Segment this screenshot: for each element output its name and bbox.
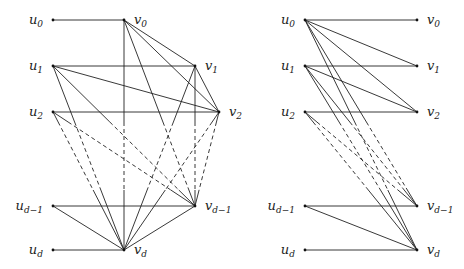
edge-u1-vd-segment	[305, 66, 339, 122]
node-vd1	[416, 205, 419, 208]
label-ud: ud	[281, 242, 295, 259]
edge-u0-vd1-dashed-segment	[366, 122, 407, 190]
node-ud	[52, 249, 55, 252]
edge-v1-vd-segment	[124, 190, 147, 250]
left-graph: u0u1u2ud−1udv0v1v2vd−1vd	[16, 12, 243, 259]
edge-u1-vd1-segment	[179, 190, 195, 206]
edge-u1-vd1-segment	[305, 66, 350, 122]
edge-u2-vd1-segment	[171, 190, 195, 206]
label-u0: u0	[281, 12, 295, 29]
edge-v1-vd-segment	[173, 66, 195, 122]
node-vd	[416, 249, 419, 252]
edge-u1-vd-segment	[101, 190, 124, 250]
label-v2: v2	[229, 104, 242, 121]
edge-u1-vd1-segment	[404, 190, 417, 206]
node-vd1	[194, 205, 197, 208]
edge-u1-vd-dashed-segment	[339, 122, 380, 190]
edge-u0-vd-dashed-segment	[355, 122, 388, 190]
edge-u1-vd1-dashed-segment	[110, 122, 179, 190]
label-ud: ud	[29, 242, 43, 259]
edge-v0-vd1-dashed-segment	[163, 122, 189, 190]
label-ud1: ud−1	[268, 198, 295, 215]
node-u2	[304, 111, 307, 114]
label-u2: u2	[281, 104, 295, 121]
label-vd: vd	[427, 242, 440, 259]
node-v0	[123, 19, 126, 22]
edge-u1-v2	[305, 66, 417, 112]
label-vd: vd	[134, 242, 147, 259]
edge-v2-vd-segment	[124, 190, 165, 250]
bipartite-graphs-figure: u0u1u2ud−1udv0v1v2vd−1vdu0u1u2ud−1udv0v1…	[0, 0, 464, 269]
edge-u2-vd-segment	[93, 190, 124, 250]
label-vd1: vd−1	[427, 198, 453, 215]
node-v2	[218, 111, 221, 114]
label-v0: v0	[427, 12, 440, 29]
label-v0: v0	[134, 12, 147, 29]
edge-u2-vd1-segment	[398, 190, 417, 206]
edge-u1-vd1-dashed-segment	[350, 122, 404, 190]
edge-ud1-vd	[53, 206, 124, 250]
label-v2: v2	[427, 104, 440, 121]
label-v1: v1	[205, 58, 218, 75]
edge-u1-v2	[53, 66, 219, 112]
node-u2	[52, 111, 55, 114]
edge-u1-vd-segment	[53, 66, 75, 122]
node-v2	[416, 111, 419, 114]
node-ud1	[304, 205, 307, 208]
edge-u2-vd-segment	[305, 112, 313, 122]
label-u2: u2	[29, 104, 43, 121]
edge-v2-vd1-dashed-segment	[199, 122, 216, 190]
edge-u0-v1	[305, 20, 417, 66]
edge-u0-vd1-segment	[305, 20, 366, 122]
label-vd1: vd−1	[205, 198, 231, 215]
node-u0	[52, 19, 55, 22]
node-ud1	[52, 205, 55, 208]
edge-v0-vd1-segment	[124, 20, 163, 122]
edge-v1-vd-dashed-segment	[147, 122, 173, 190]
node-v1	[194, 65, 197, 68]
edge-u2-vd1-dashed-segment	[317, 122, 398, 190]
edge-u2-vd1-dashed-segment	[68, 122, 171, 190]
edge-u2-vd-dashed-segment	[313, 122, 368, 190]
node-ud	[304, 249, 307, 252]
edge-u1-vd1-segment	[53, 66, 110, 122]
right-graph: u0u1u2ud−1udv0v1v2vd−1vd	[268, 12, 454, 259]
node-u0	[304, 19, 307, 22]
edge-v2-vd1-segment	[195, 190, 199, 206]
edge-v2-vd-dashed-segment	[165, 122, 212, 190]
node-v1	[416, 65, 419, 68]
node-u1	[52, 65, 55, 68]
label-u0: u0	[29, 12, 43, 29]
node-u1	[304, 65, 307, 68]
diagram-canvas: u0u1u2ud−1udv0v1v2vd−1vdu0u1u2ud−1udv0v1…	[0, 0, 464, 269]
node-v0	[416, 19, 419, 22]
label-ud1: ud−1	[16, 198, 43, 215]
label-v1: v1	[427, 58, 440, 75]
label-u1: u1	[29, 58, 43, 75]
label-u1: u1	[281, 58, 295, 75]
node-vd	[123, 249, 126, 252]
edge-ud1-vd	[305, 206, 417, 250]
